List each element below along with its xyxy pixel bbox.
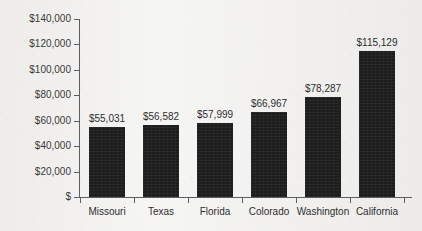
- x-axis-label-washington: Washington: [292, 206, 354, 217]
- y-axis-tick-label: $120,000: [0, 39, 71, 49]
- x-axis-label-florida: Florida: [184, 206, 246, 217]
- x-axis-tick: [134, 198, 135, 203]
- y-axis-tick-label: $: [0, 192, 71, 202]
- bar-slot: $115,129: [350, 19, 404, 197]
- x-axis-tick: [188, 198, 189, 203]
- bar-slot: $55,031: [80, 19, 134, 197]
- y-axis-tick-label: $100,000: [0, 65, 71, 75]
- x-axis-tick: [350, 198, 351, 203]
- x-axis-line: [79, 197, 412, 198]
- x-axis-tick: [404, 198, 405, 203]
- y-axis-tick: [74, 44, 79, 45]
- y-axis-tick: [74, 146, 79, 147]
- bar-slot: $56,582: [134, 19, 188, 197]
- y-axis-tick-label: $40,000: [0, 141, 71, 151]
- bar-missouri[interactable]: [89, 127, 125, 197]
- bar-value-label: $66,967: [233, 99, 305, 109]
- x-axis-tick: [296, 198, 297, 203]
- y-axis-tick: [74, 172, 79, 173]
- x-axis-label-colorado: Colorado: [238, 206, 300, 217]
- x-axis-tick: [242, 198, 243, 203]
- y-axis-tick-label: $60,000: [0, 116, 71, 126]
- bar-washington[interactable]: [305, 97, 341, 197]
- x-axis-label-texas: Texas: [130, 206, 192, 217]
- bar-california[interactable]: [359, 51, 395, 197]
- bar-chart: $$20,000$40,000$60,000$80,000$100,000$12…: [0, 0, 422, 231]
- bar-value-label: $78,287: [287, 84, 359, 94]
- x-axis-tick: [80, 198, 81, 203]
- bar-colorado[interactable]: [251, 112, 287, 197]
- x-axis-label-california: California: [346, 206, 408, 217]
- y-axis-tick: [74, 95, 79, 96]
- x-axis-label-missouri: Missouri: [76, 206, 138, 217]
- bar-value-label: $115,129: [341, 38, 413, 48]
- bar-slot: $66,967: [242, 19, 296, 197]
- plot-area: $55,031$56,582$57,999$66,967$78,287$115,…: [80, 19, 412, 197]
- y-axis-tick-label: $140,000: [0, 14, 71, 24]
- y-axis-tick: [74, 19, 79, 20]
- y-axis-tick: [74, 70, 79, 71]
- y-axis-tick: [74, 197, 79, 198]
- y-axis-tick-label: $80,000: [0, 90, 71, 100]
- bar-texas[interactable]: [143, 125, 179, 197]
- y-axis-tick-label: $20,000: [0, 167, 71, 177]
- bar-value-label: $57,999: [179, 110, 251, 120]
- bar-florida[interactable]: [197, 123, 233, 197]
